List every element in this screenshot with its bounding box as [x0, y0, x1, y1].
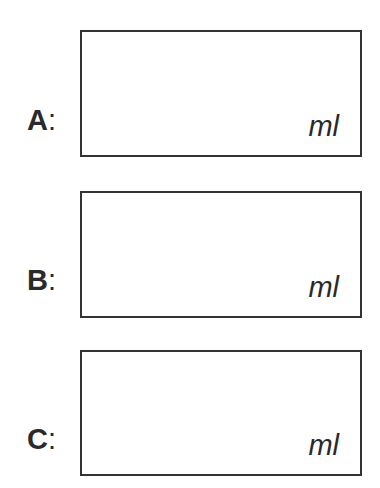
answer-box-c[interactable]: ml: [80, 350, 362, 476]
field-label-a: A:: [27, 106, 56, 135]
unit-label-b: ml: [308, 273, 339, 302]
field-label-b: B:: [27, 266, 56, 295]
unit-label-a: ml: [308, 112, 339, 141]
unit-label-c: ml: [308, 431, 339, 460]
field-label-c: C:: [27, 425, 56, 454]
answer-box-b[interactable]: ml: [80, 191, 362, 318]
answer-box-a[interactable]: ml: [80, 30, 362, 157]
